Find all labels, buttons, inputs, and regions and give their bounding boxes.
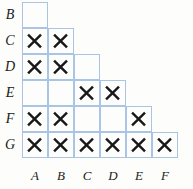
- column-label-f: F: [152, 166, 178, 186]
- grid-cell-cd[interactable]: [74, 54, 100, 80]
- x-mark-icon: [23, 55, 47, 79]
- x-mark-icon: [23, 133, 47, 157]
- x-mark-icon: [127, 133, 151, 157]
- x-mark-icon: [49, 29, 73, 53]
- grid-cell-cg[interactable]: [74, 132, 100, 158]
- grid-cell-be[interactable]: [48, 80, 74, 106]
- grid-cell-bf[interactable]: [48, 106, 74, 132]
- row-label-g: G: [0, 132, 20, 158]
- x-mark-icon: [23, 107, 47, 131]
- grid-cell-ag[interactable]: [22, 132, 48, 158]
- x-mark-icon: [23, 29, 47, 53]
- x-mark-icon: [75, 81, 99, 105]
- staircase-grid-figure: BCDEFG ABCDEF: [0, 0, 193, 189]
- column-label-d: D: [100, 166, 126, 186]
- row-label-e: E: [0, 80, 20, 106]
- column-label-e: E: [126, 166, 152, 186]
- grid-cell-df[interactable]: [100, 106, 126, 132]
- column-label-a: A: [22, 166, 48, 186]
- grid-cell-ab[interactable]: [22, 2, 48, 28]
- grid-cell-ef[interactable]: [126, 106, 152, 132]
- row-label-c: C: [0, 28, 20, 54]
- x-mark-icon: [49, 107, 73, 131]
- x-mark-icon: [153, 133, 177, 157]
- grid-cell-bd[interactable]: [48, 54, 74, 80]
- grid-cell-fg[interactable]: [152, 132, 178, 158]
- grid-cell-ad[interactable]: [22, 54, 48, 80]
- x-mark-icon: [101, 133, 125, 157]
- grid-cell-de[interactable]: [100, 80, 126, 106]
- column-label-b: B: [48, 166, 74, 186]
- x-mark-icon: [75, 133, 99, 157]
- row-label-b: B: [0, 2, 20, 28]
- x-mark-icon: [49, 133, 73, 157]
- x-mark-icon: [127, 107, 151, 131]
- grid-cell-bg[interactable]: [48, 132, 74, 158]
- row-label-f: F: [0, 106, 20, 132]
- grid-cell-ce[interactable]: [74, 80, 100, 106]
- grid-cell-ae[interactable]: [22, 80, 48, 106]
- grid-cell-dg[interactable]: [100, 132, 126, 158]
- x-mark-icon: [49, 55, 73, 79]
- column-label-c: C: [74, 166, 100, 186]
- grid-cell-ac[interactable]: [22, 28, 48, 54]
- x-mark-icon: [101, 81, 125, 105]
- grid-cell-cf[interactable]: [74, 106, 100, 132]
- grid-cell-eg[interactable]: [126, 132, 152, 158]
- grid-cell-bc[interactable]: [48, 28, 74, 54]
- row-label-d: D: [0, 54, 20, 80]
- grid-cell-af[interactable]: [22, 106, 48, 132]
